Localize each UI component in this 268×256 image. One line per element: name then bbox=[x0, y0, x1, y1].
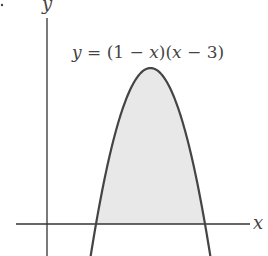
x-axis-label: x bbox=[253, 212, 263, 233]
y-axis-label: y bbox=[41, 0, 53, 14]
bullet-dot bbox=[1, 4, 3, 6]
equation-label: y = (1 − x)(x − 3) bbox=[71, 42, 224, 62]
parabola-chart: y x y = (1 − x)(x − 3) bbox=[0, 0, 268, 256]
